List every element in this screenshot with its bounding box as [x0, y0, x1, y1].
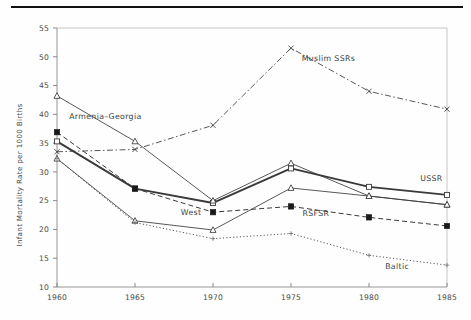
y-tick-label: 55 [39, 24, 49, 33]
data-point-marker [445, 192, 450, 197]
line-chart-figure: 10152025303540455055 1960196519701975198… [0, 0, 471, 320]
data-point-marker [54, 129, 59, 134]
series-markers [54, 46, 450, 268]
data-point-marker [288, 160, 294, 166]
series-line-rsfsr [57, 132, 447, 226]
series-label-baltic: Baltic [385, 262, 409, 271]
y-tick-label: 45 [39, 81, 49, 90]
data-point-marker [367, 184, 372, 189]
x-tick-label: 1975 [281, 293, 301, 302]
x-axis-ticks [57, 283, 447, 287]
data-point-marker [288, 46, 293, 51]
y-tick-label: 10 [39, 283, 49, 292]
series-label-ussr: USSR [420, 174, 443, 183]
x-axis-tick-labels: 196019651970197519801985 [47, 293, 457, 302]
series-label-muslim-ssrs: Muslim SSRs [302, 54, 355, 63]
y-tick-label: 35 [39, 139, 49, 148]
data-point-marker [55, 139, 60, 144]
data-point-marker [367, 253, 371, 257]
x-tick-label: 1965 [125, 293, 145, 302]
series-inline-labels: USSRRSFSRWestBalticArmenia–GeorgiaMuslim… [69, 54, 443, 271]
data-point-marker [210, 209, 215, 214]
x-tick-label: 1985 [437, 293, 457, 302]
y-axis-tick-labels: 10152025303540455055 [39, 24, 49, 292]
y-tick-label: 30 [39, 168, 49, 177]
y-tick-label: 40 [39, 110, 49, 119]
y-tick-label: 25 [39, 196, 49, 205]
series-line-ussr [57, 141, 447, 203]
series-label-armenia-georgia: Armenia–Georgia [69, 112, 141, 121]
data-point-marker [288, 204, 293, 209]
data-point-marker [132, 138, 138, 144]
data-point-marker [288, 185, 294, 191]
data-point-marker [444, 223, 449, 228]
series-label-rsfsr: RSFSR [303, 209, 330, 218]
data-point-marker [211, 236, 215, 240]
data-point-marker [132, 186, 137, 191]
data-point-marker [445, 263, 449, 267]
y-tick-label: 50 [39, 53, 49, 62]
x-tick-label: 1980 [359, 293, 379, 302]
y-tick-label: 20 [39, 225, 49, 234]
y-tick-label: 15 [39, 254, 49, 263]
series-line-muslim-ssrs [57, 48, 447, 152]
data-point-marker [366, 89, 371, 94]
data-point-marker [210, 123, 215, 128]
figure-page: 10152025303540455055 1960196519701975198… [0, 0, 471, 320]
data-point-marker [289, 166, 294, 171]
data-point-marker [54, 93, 60, 99]
x-tick-label: 1970 [203, 293, 223, 302]
plot-frame [57, 28, 447, 287]
chart-svg: 10152025303540455055 1960196519701975198… [0, 0, 471, 320]
data-point-marker [366, 215, 371, 220]
x-tick-label: 1960 [47, 293, 67, 302]
data-point-marker [289, 231, 293, 235]
y-axis-title: Infant Mortality Rate per 1000 Births [15, 103, 24, 246]
series-label-west: West [181, 208, 202, 217]
series-lines [57, 48, 447, 265]
